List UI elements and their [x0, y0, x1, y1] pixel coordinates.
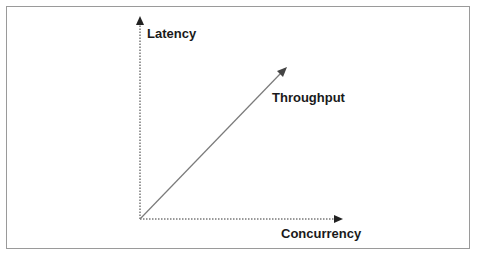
diagram-canvas: Latency Throughput Concurrency: [0, 0, 478, 256]
trend-label: Throughput: [272, 90, 346, 105]
y-axis-arrowhead-icon: [136, 16, 144, 25]
x-axis-arrowhead-icon: [334, 215, 343, 223]
x-axis-label: Concurrency: [281, 226, 362, 241]
throughput-line: [140, 73, 281, 219]
y-axis-label: Latency: [147, 26, 197, 41]
